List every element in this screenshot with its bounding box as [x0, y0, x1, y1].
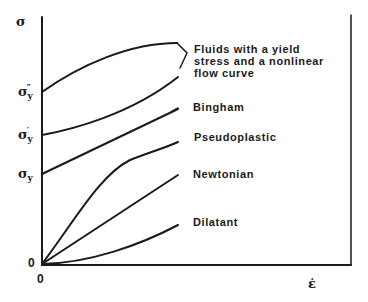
label-pseudoplastic: Pseudoplastic	[194, 131, 276, 143]
curve-pseudoplastic	[42, 142, 178, 264]
brace-icon	[177, 43, 187, 68]
label-dilatant: Dilatant	[193, 216, 238, 228]
yield-label: σy	[18, 166, 33, 181]
y-axis-label: σ	[16, 14, 26, 29]
curve-dilatant	[42, 225, 178, 264]
label-newtonian: Newtonian	[193, 168, 254, 180]
label-line: flow curve	[194, 67, 324, 79]
label-line: Fluids with a yield	[194, 43, 324, 55]
curve-nonlinear-yield-upper	[42, 43, 177, 92]
label-line: stress and a nonlinear	[194, 55, 324, 67]
label-nonlinear-yield: Fluids with a yield stress and a nonline…	[194, 43, 324, 79]
curve-nonlinear-yield-lower	[42, 77, 178, 135]
yield-label-double-prime: σy″	[18, 84, 37, 99]
origin-y-label: 0	[28, 256, 35, 270]
yield-label-prime: σy′	[18, 127, 35, 142]
curve-bingham	[42, 109, 178, 174]
origin-x-label: 0	[37, 272, 44, 286]
x-axis-label: ε̇	[308, 276, 316, 291]
label-bingham: Bingham	[193, 101, 244, 113]
yield-prime: ′	[27, 126, 29, 136]
yield-subscript: y	[28, 173, 33, 183]
yield-prime: ″	[27, 83, 31, 93]
yield-symbol: σ	[18, 166, 28, 181]
curve-newtonian	[42, 175, 178, 264]
